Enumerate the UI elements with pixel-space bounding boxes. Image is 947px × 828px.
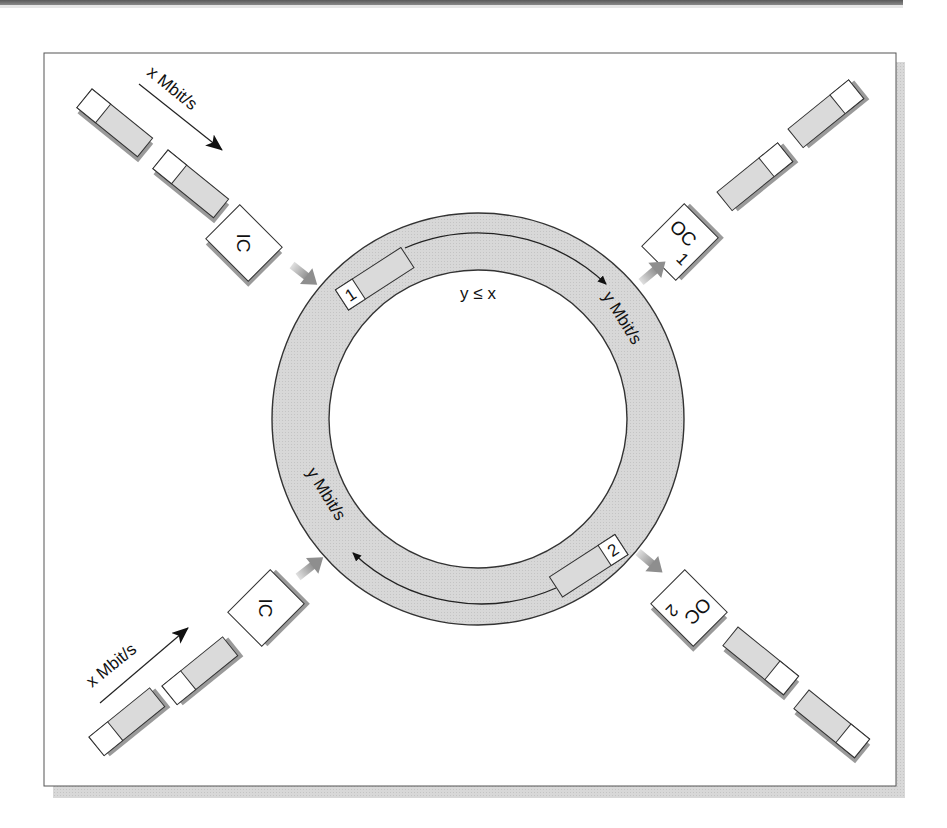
ic-label-tl: IC xyxy=(233,234,254,253)
ring-bus xyxy=(272,213,684,625)
ring-condition-label: y ≤ x xyxy=(460,284,496,303)
ic-label-bl: IC xyxy=(255,599,276,618)
ring-network-diagram: 1 2 y ≤ x y Mbit/s y Mbit/s IC x Mbit/s … xyxy=(0,0,947,828)
